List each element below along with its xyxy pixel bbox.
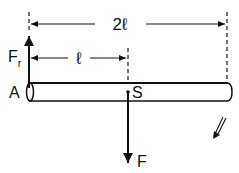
weight-force-label: F	[137, 153, 147, 170]
pivot-label: A	[9, 84, 20, 101]
half-length-label: ℓ	[75, 49, 82, 68]
rotation-direction-icon	[213, 117, 226, 139]
half-length-dimension: ℓ	[31, 49, 126, 68]
center-of-mass-label: S	[132, 84, 143, 101]
rod-diagram: 2ℓ ℓ Fr A S F	[0, 0, 239, 173]
full-length-dimension: 2ℓ	[31, 15, 225, 34]
full-length-label: 2ℓ	[113, 15, 128, 34]
reaction-force-label: Fr	[8, 48, 22, 69]
